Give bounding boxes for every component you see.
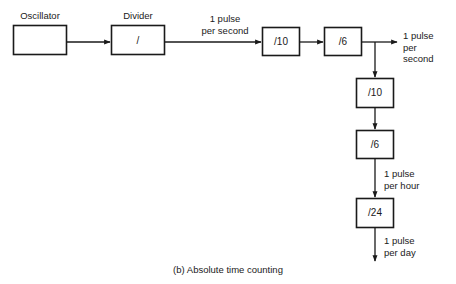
block-div6-a-text: /6 [324,37,362,47]
block-div10-b-text: /10 [356,88,394,98]
annotation-pulse-per-second-output: 1 pulse per second [403,30,455,65]
figure-caption: (b) Absolute time counting [0,264,456,275]
block-div10-a-text: /10 [262,37,300,47]
block-div24-text: /24 [356,208,394,218]
label-divider: Divider [103,10,173,22]
block-divider-text: / [111,36,165,46]
annotation-pulse-per-day: 1 pulse per day [384,235,450,258]
block-diagram-figure: Oscillator Divider / /10 /6 /10 /6 /24 1… [0,0,456,284]
annotation-pulse-per-second-input: 1 pulse per second [186,13,264,36]
annotation-pulse-per-hour: 1 pulse per hour [384,168,450,191]
label-oscillator: Oscillator [5,10,75,22]
block-div6-b-text: /6 [356,140,394,150]
block-oscillator [14,26,67,55]
